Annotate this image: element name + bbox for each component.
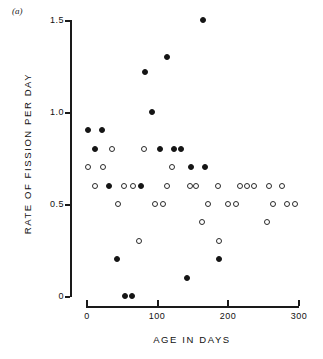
data-point-open: [279, 183, 285, 189]
data-point-filled: [188, 164, 194, 170]
data-point-open: [130, 183, 136, 189]
data-point-open: [216, 238, 222, 244]
data-point-open: [187, 183, 193, 189]
data-point-open: [264, 219, 270, 225]
data-point-open: [136, 238, 142, 244]
data-point-open: [292, 201, 298, 207]
data-point-open: [199, 219, 205, 225]
data-point-filled: [149, 109, 155, 115]
data-point-filled: [92, 146, 98, 152]
data-point-open: [100, 164, 106, 170]
data-point-filled: [138, 183, 144, 189]
data-point-open: [121, 183, 127, 189]
data-point-open: [237, 183, 243, 189]
data-point-filled: [157, 146, 163, 152]
data-point-filled: [129, 293, 135, 299]
data-point-open: [109, 146, 115, 152]
data-point-open: [193, 183, 199, 189]
data-point-open: [266, 183, 272, 189]
data-point-open: [92, 183, 98, 189]
figure-panel: (a) RATE OF FISSION PER DAY 1.5 1.0 0.5 …: [0, 0, 323, 359]
data-point-open: [225, 201, 231, 207]
data-point-open: [164, 183, 170, 189]
data-point-open: [169, 164, 175, 170]
data-point-open: [152, 201, 158, 207]
data-point-filled: [106, 183, 112, 189]
data-point-filled: [171, 146, 177, 152]
data-point-filled: [142, 69, 148, 75]
data-point-filled: [200, 17, 206, 23]
data-point-open: [233, 201, 239, 207]
data-point-filled: [178, 146, 184, 152]
data-point-open: [215, 183, 221, 189]
data-point-open: [141, 146, 147, 152]
data-point-open: [85, 164, 91, 170]
data-point-open: [160, 201, 166, 207]
data-point-open: [270, 201, 276, 207]
data-point-open: [205, 201, 211, 207]
data-point-filled: [114, 256, 120, 262]
data-point-filled: [202, 164, 208, 170]
data-point-filled: [122, 293, 128, 299]
data-point-filled: [184, 275, 190, 281]
data-point-open: [115, 201, 121, 207]
data-point-filled: [99, 127, 105, 133]
plot-area: [0, 0, 323, 359]
data-point-open: [284, 201, 290, 207]
data-point-open: [244, 183, 250, 189]
data-point-filled: [164, 54, 170, 60]
data-point-filled: [85, 127, 91, 133]
data-point-open: [251, 183, 257, 189]
data-point-filled: [216, 256, 222, 262]
